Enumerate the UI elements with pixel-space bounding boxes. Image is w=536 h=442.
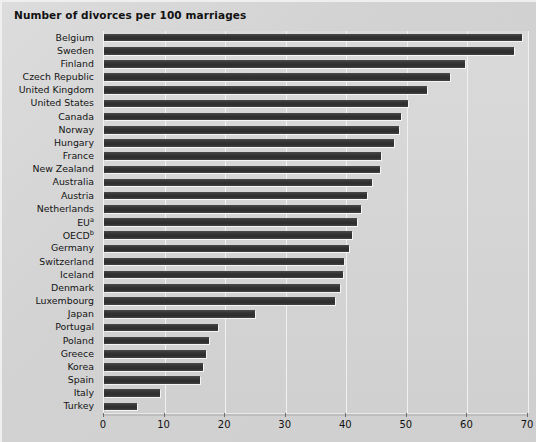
bar-canada: [104, 113, 401, 121]
category-label-japan: Japan: [68, 309, 94, 318]
bar-germany: [104, 245, 349, 253]
category-label-france: France: [63, 151, 94, 160]
bar-portugal: [104, 324, 218, 332]
category-label-eu: EUa: [77, 217, 94, 228]
bar-new-zealand: [104, 166, 380, 174]
plot-area: [103, 31, 528, 413]
chart-figure: Number of divorces per 100 marriages Bel…: [0, 0, 536, 442]
bar-denmark: [104, 284, 340, 292]
bar-italy: [104, 389, 160, 397]
gridline-60: [467, 31, 468, 413]
category-label-korea: Korea: [67, 362, 94, 371]
bar-greece: [104, 350, 206, 358]
x-tick-10: [164, 413, 165, 417]
category-label-netherlands: Netherlands: [37, 204, 94, 213]
category-label-greece: Greece: [61, 349, 94, 358]
category-label-oecd: OECDb: [63, 230, 94, 241]
x-tick-20: [224, 413, 225, 417]
bar-united-kingdom: [104, 86, 427, 94]
bar-belgium: [104, 34, 522, 42]
category-label-iceland: Iceland: [60, 270, 94, 279]
bar-france: [104, 152, 381, 160]
bar-hungary: [104, 139, 394, 147]
category-label-united-states: United States: [31, 98, 94, 107]
x-tick-label-10: 10: [157, 419, 170, 430]
bar-luxembourg: [104, 297, 335, 305]
x-axis-line: [103, 413, 527, 416]
category-label-czech-republic: Czech Republic: [23, 72, 94, 81]
x-tick-60: [466, 413, 467, 417]
category-label-switzerland: Switzerland: [39, 257, 94, 266]
bar-korea: [104, 363, 203, 371]
bar-united-states: [104, 100, 408, 108]
x-tick-50: [406, 413, 407, 417]
category-label-belgium: Belgium: [56, 33, 94, 42]
bar-iceland: [104, 271, 343, 279]
bar-czech-republic: [104, 73, 450, 81]
category-axis-labels: BelgiumSwedenFinlandCzech RepublicUnited…: [2, 31, 100, 413]
x-tick-label-50: 50: [399, 419, 412, 430]
gridline-70: [528, 31, 529, 413]
bar-turkey: [104, 403, 137, 411]
x-tick-0: [103, 413, 104, 417]
x-tick-label-70: 70: [521, 419, 534, 430]
category-label-canada: Canada: [58, 112, 94, 121]
bar-australia: [104, 179, 372, 187]
x-tick-70: [527, 413, 528, 417]
category-label-austria: Austria: [61, 191, 94, 200]
x-tick-label-40: 40: [339, 419, 352, 430]
bar-spain: [104, 376, 200, 384]
category-label-turkey: Turkey: [63, 401, 94, 410]
x-tick-30: [285, 413, 286, 417]
category-label-italy: Italy: [74, 388, 94, 397]
chart-title: Number of divorces per 100 marriages: [14, 9, 246, 21]
x-tick-40: [345, 413, 346, 417]
category-label-hungary: Hungary: [54, 138, 94, 147]
category-label-norway: Norway: [58, 125, 94, 134]
bar-eu: [104, 218, 357, 226]
category-label-poland: Poland: [63, 336, 94, 345]
category-label-finland: Finland: [61, 59, 95, 68]
category-label-spain: Spain: [68, 375, 94, 384]
bar-sweden: [104, 47, 514, 55]
bar-norway: [104, 126, 399, 134]
bar-austria: [104, 192, 367, 200]
x-tick-label-0: 0: [100, 419, 106, 430]
bar-japan: [104, 310, 255, 318]
bar-netherlands: [104, 205, 361, 213]
category-label-denmark: Denmark: [51, 283, 94, 292]
category-label-luxembourg: Luxembourg: [36, 296, 94, 305]
category-label-australia: Australia: [53, 177, 94, 186]
x-tick-label-30: 30: [278, 419, 291, 430]
x-tick-label-20: 20: [218, 419, 231, 430]
bar-poland: [104, 337, 209, 345]
category-label-sweden: Sweden: [57, 46, 94, 55]
bar-finland: [104, 60, 465, 68]
category-label-germany: Germany: [51, 243, 94, 252]
bar-oecd: [104, 231, 352, 239]
x-tick-label-60: 60: [460, 419, 473, 430]
category-label-portugal: Portugal: [55, 322, 94, 331]
category-label-new-zealand: New Zealand: [32, 164, 94, 173]
category-label-united-kingdom: United Kingdom: [19, 85, 94, 94]
bar-switzerland: [104, 258, 344, 266]
